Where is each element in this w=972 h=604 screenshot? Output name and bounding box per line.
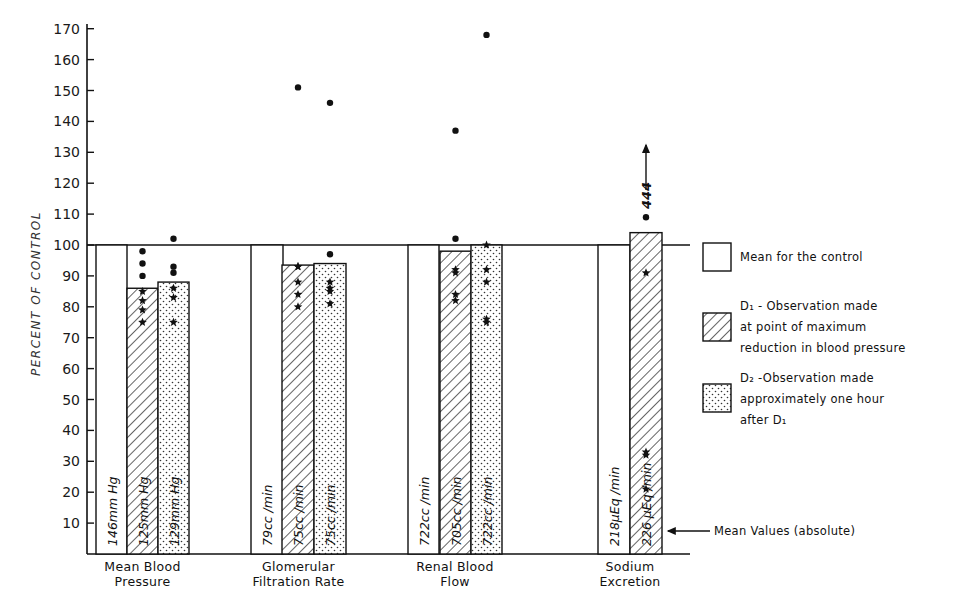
data-point-dot	[139, 260, 145, 266]
legend-label-d2-line2: approximately one hour	[740, 392, 884, 406]
category-label: Mean Blood	[104, 559, 180, 574]
bar-absolute-value: 705cc /min	[449, 477, 464, 546]
y-tick-label: 140	[53, 113, 80, 129]
data-point-dot	[327, 251, 333, 257]
bar-absolute-value: 218μEq /min	[607, 467, 622, 546]
data-point-dot	[170, 270, 176, 276]
category-label: Sodium	[606, 559, 655, 574]
category-label: Glomerular	[262, 559, 336, 574]
y-tick-label: 170	[53, 21, 80, 37]
mean-values-annotation: Mean Values (absolute)	[668, 524, 855, 538]
legend-label-control: Mean for the control	[740, 250, 863, 264]
data-points	[138, 32, 650, 493]
category-label: Flow	[440, 574, 470, 589]
bars: 146mm Hg125mm Hg129mm Hg79cc /min75cc /m…	[96, 233, 662, 554]
data-point-dot	[327, 100, 333, 106]
data-point-dot	[170, 236, 176, 242]
legend-item-d1: D₁ - Observation made at point of maximu…	[703, 299, 906, 355]
mean-values-label: Mean Values (absolute)	[714, 524, 855, 538]
category-label: Renal Blood	[416, 559, 493, 574]
y-tick-label: 40	[62, 422, 80, 438]
legend-swatch-hatch	[703, 313, 731, 341]
legend-label-d2-line3: after D₁	[740, 413, 787, 427]
y-tick-label: 110	[53, 206, 80, 222]
data-point-dot	[295, 84, 301, 90]
bar-absolute-value: 722cc /min	[417, 477, 432, 546]
legend-label-d1-line3: reduction in blood pressure	[740, 341, 906, 355]
y-tick-label: 10	[62, 515, 80, 531]
bar-group: 218μEq /min226 μEq /min	[598, 233, 662, 554]
legend-item-control: Mean for the control	[703, 243, 863, 271]
bar-absolute-value: 146mm Hg	[105, 476, 120, 546]
data-point-dot	[483, 32, 489, 38]
data-point-dot	[139, 248, 145, 254]
y-tick-label: 100	[53, 237, 80, 253]
legend-item-d2: D₂ -Observation made approximately one h…	[703, 371, 884, 427]
category-label: Pressure	[115, 574, 171, 589]
category-label: Filtration Rate	[252, 574, 344, 589]
legend-label-d1-line1: D₁ - Observation made	[740, 299, 878, 313]
bar-absolute-value: 226 μEq /min	[639, 463, 654, 546]
y-tick-label: 20	[62, 484, 80, 500]
data-point-dot	[139, 273, 145, 279]
legend-label-d2-line1: D₂ -Observation made	[740, 371, 874, 385]
legend-label-d1-line2: at point of maximum	[740, 320, 867, 334]
y-tick-label: 120	[53, 175, 80, 191]
y-tick-label: 150	[53, 83, 80, 99]
category-label: Excretion	[599, 574, 660, 589]
bar-absolute-value: 79cc /min	[260, 485, 275, 546]
y-tick-label: 60	[62, 361, 80, 377]
legend-swatch-blank	[703, 243, 731, 271]
y-axis-ticks: 1020304050607080901001101201301401501601…	[53, 21, 94, 531]
bar-absolute-value: 722cc /min	[480, 477, 495, 546]
off-scale-value: 444	[639, 182, 654, 210]
y-axis: 1020304050607080901001101201301401501601…	[29, 21, 94, 554]
off-scale-annotation: 444	[639, 145, 654, 210]
category-labels: Mean BloodPressureGlomerularFiltration R…	[104, 559, 660, 589]
y-tick-label: 50	[62, 392, 80, 408]
data-point-dot	[452, 127, 458, 133]
y-tick-label: 130	[53, 144, 80, 160]
data-point-dot	[643, 214, 649, 220]
y-tick-label: 70	[62, 330, 80, 346]
chart-canvas: 1020304050607080901001101201301401501601…	[0, 0, 972, 604]
bar-absolute-value: 75cc /min	[291, 485, 306, 546]
legend-swatch-dots	[703, 384, 731, 412]
bar-absolute-value: 125mm Hg	[136, 476, 151, 546]
data-point-dot	[452, 236, 458, 242]
y-tick-label: 30	[62, 453, 80, 469]
data-point-dot	[170, 263, 176, 269]
y-axis-label: PERCENT OF CONTROL	[29, 211, 43, 376]
bar-absolute-value: 75cc /min	[323, 485, 338, 546]
bar-absolute-value: 129mm Hg	[167, 476, 182, 546]
y-tick-label: 80	[62, 299, 80, 315]
y-tick-label: 160	[53, 52, 80, 68]
legend: Mean for the control D₁ - Observation ma…	[703, 243, 906, 427]
y-tick-label: 90	[62, 268, 80, 284]
